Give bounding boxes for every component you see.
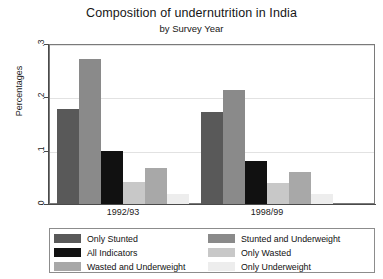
legend-swatch — [54, 248, 81, 257]
bar — [79, 59, 101, 204]
chart-subtitle: by Survey Year — [0, 23, 383, 34]
legend-item: Only Wasted — [208, 246, 368, 259]
legend-label: Stunted and Underweight — [241, 234, 340, 244]
legend-item: Only Stunted — [54, 232, 214, 245]
bar — [123, 182, 145, 204]
legend-label: Only Underweight — [241, 262, 311, 272]
legend-column-left: Only StuntedAll IndicatorsWasted and Und… — [54, 232, 214, 274]
bar — [245, 161, 267, 204]
y-axis-tick-label: .1 — [0, 145, 44, 155]
legend-item: Stunted and Underweight — [208, 232, 368, 245]
legend-swatch — [208, 234, 235, 243]
chart-title: Composition of undernutrition in India — [0, 6, 383, 20]
bar — [223, 90, 245, 204]
y-axis-tick-label: 0 — [0, 198, 44, 208]
bar — [267, 183, 289, 204]
legend-item: Only Underweight — [208, 260, 368, 273]
bar — [201, 112, 223, 204]
legend-swatch — [208, 262, 235, 271]
bar — [101, 151, 123, 204]
legend-label: Only Stunted — [87, 234, 138, 244]
y-axis-title: Percentages — [14, 36, 24, 146]
legend-label: Wasted and Underweight — [87, 262, 185, 272]
legend-swatch — [54, 234, 81, 243]
chart-container: Composition of undernutrition in India b… — [0, 0, 383, 279]
legend-swatch — [54, 262, 81, 271]
bar-series-layer — [49, 44, 375, 204]
bar — [311, 194, 333, 204]
legend-box: Only StuntedAll IndicatorsWasted and Und… — [49, 228, 375, 273]
legend-label: Only Wasted — [241, 248, 291, 258]
x-axis-tick-label: 1998/99 — [222, 207, 312, 217]
legend-item: Wasted and Underweight — [54, 260, 214, 273]
x-axis-tick-label: 1992/93 — [78, 207, 168, 217]
bar — [289, 172, 311, 204]
legend-item: All Indicators — [54, 246, 214, 259]
legend-label: All Indicators — [87, 248, 137, 258]
bar — [167, 194, 189, 204]
legend-swatch — [208, 248, 235, 257]
legend-column-right: Stunted and UnderweightOnly WastedOnly U… — [208, 232, 368, 274]
bar — [145, 168, 167, 204]
x-axis-line — [48, 204, 376, 205]
bar — [57, 109, 79, 204]
